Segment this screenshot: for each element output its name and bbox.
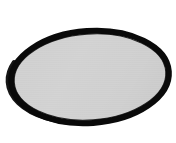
oval-mesh-illustration: [0, 0, 176, 143]
image-canvas: A wide oval with a thick solid black bor…: [0, 0, 176, 143]
